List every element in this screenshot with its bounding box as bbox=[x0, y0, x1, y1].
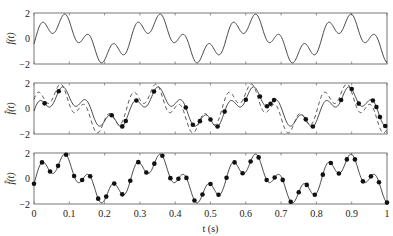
sample-point bbox=[40, 160, 45, 165]
y-tick-label: 2 bbox=[25, 8, 30, 19]
sample-point bbox=[385, 200, 390, 205]
sample-point bbox=[112, 181, 117, 186]
sample-point bbox=[288, 199, 293, 204]
sample-point bbox=[72, 174, 77, 179]
sample-point bbox=[128, 179, 133, 184]
sample-point bbox=[32, 182, 37, 187]
sample-point bbox=[183, 105, 188, 110]
sample-point bbox=[80, 178, 85, 183]
x-tick-label: 0.6 bbox=[240, 208, 253, 219]
sample-point bbox=[134, 98, 139, 103]
sample-point bbox=[312, 192, 317, 197]
sample-point bbox=[383, 124, 388, 129]
sample-point bbox=[353, 157, 358, 162]
sample-point bbox=[240, 171, 245, 176]
sample-point bbox=[88, 174, 93, 179]
figure: 20−2f(t)20−2f̂(t)20−2f̂(t)00.10.20.30.40… bbox=[0, 0, 393, 235]
sample-point bbox=[244, 98, 249, 103]
sample-point bbox=[369, 174, 374, 179]
sample-point bbox=[200, 192, 205, 197]
y-tick-label: 2 bbox=[25, 78, 30, 89]
x-tick-label: 0.1 bbox=[63, 208, 76, 219]
sample-point bbox=[198, 119, 203, 124]
x-tick-label: 0.2 bbox=[98, 208, 111, 219]
x-tick-label: 1 bbox=[385, 208, 390, 219]
sample-point bbox=[104, 194, 109, 199]
sample-point bbox=[192, 198, 197, 203]
sample-point bbox=[272, 98, 277, 103]
sample-point bbox=[160, 154, 165, 159]
original-signal-dashed bbox=[34, 84, 387, 133]
sample-point bbox=[268, 101, 273, 106]
sample-point bbox=[311, 124, 316, 129]
x-tick-label: 0.3 bbox=[134, 208, 147, 219]
sample-point bbox=[208, 117, 213, 122]
sample-point bbox=[280, 178, 285, 183]
x-axis-label: t (s) bbox=[203, 223, 219, 235]
sample-point bbox=[222, 109, 227, 114]
sample-point bbox=[371, 98, 376, 103]
axes-frame bbox=[34, 153, 387, 204]
signal-line bbox=[34, 14, 387, 63]
sample-point bbox=[56, 164, 61, 169]
y-tick-label: 0 bbox=[25, 33, 30, 44]
y-axis-label: f̂(t) bbox=[4, 102, 17, 115]
sample-point bbox=[377, 180, 382, 185]
sample-point bbox=[339, 98, 344, 103]
sample-point bbox=[176, 177, 181, 182]
y-tick-label: 0 bbox=[25, 103, 30, 114]
sample-point bbox=[184, 176, 189, 181]
sample-point bbox=[42, 101, 47, 106]
y-axis-label: f̂(t) bbox=[4, 172, 17, 185]
sample-point bbox=[152, 161, 157, 166]
sample-point bbox=[215, 124, 220, 129]
sample-point bbox=[216, 192, 221, 197]
sample-point bbox=[264, 178, 269, 183]
sample-point bbox=[296, 190, 301, 195]
x-tick-label: 0.9 bbox=[345, 208, 358, 219]
x-tick-label: 0 bbox=[32, 208, 37, 219]
signal-line bbox=[34, 154, 387, 203]
sample-point bbox=[208, 182, 213, 187]
sample-point bbox=[272, 175, 277, 180]
sample-point bbox=[64, 152, 69, 157]
sample-point bbox=[120, 124, 125, 129]
sample-point bbox=[258, 94, 263, 99]
y-tick-label: 0 bbox=[25, 173, 30, 184]
panel-reconstruction-irregular: 20−2f̂(t) bbox=[4, 78, 388, 140]
x-tick-label: 0.5 bbox=[204, 208, 217, 219]
sample-point bbox=[96, 196, 101, 201]
sample-point bbox=[248, 159, 253, 164]
y-tick-label: −2 bbox=[19, 59, 30, 70]
x-tick-label: 0.7 bbox=[275, 208, 288, 219]
sample-point bbox=[168, 176, 173, 181]
x-tick-label: 0.4 bbox=[169, 208, 182, 219]
sample-point bbox=[321, 172, 326, 177]
sample-point bbox=[356, 101, 361, 106]
sample-point bbox=[337, 171, 342, 176]
y-tick-label: −2 bbox=[19, 129, 30, 140]
sample-point bbox=[304, 117, 309, 122]
sample-point bbox=[345, 157, 350, 162]
sample-point bbox=[374, 105, 379, 110]
y-axis-label: f(t) bbox=[5, 32, 17, 45]
sample-point bbox=[136, 160, 141, 165]
sample-point bbox=[123, 119, 128, 124]
sample-point bbox=[256, 155, 261, 160]
sample-point bbox=[224, 175, 229, 180]
sample-point bbox=[378, 115, 383, 120]
sample-point bbox=[56, 89, 61, 94]
panel-original: 20−2f(t) bbox=[5, 8, 387, 70]
sample-point bbox=[144, 170, 149, 175]
y-tick-label: 2 bbox=[25, 148, 30, 159]
sample-point bbox=[152, 89, 157, 94]
sample-point bbox=[48, 169, 53, 174]
x-tick-label: 0.8 bbox=[310, 208, 323, 219]
sample-point bbox=[109, 113, 114, 118]
sample-point bbox=[349, 87, 354, 92]
y-tick-label: −2 bbox=[19, 199, 30, 210]
sample-point bbox=[361, 179, 366, 184]
sample-point bbox=[329, 161, 334, 166]
panel-reconstruction-uniform: 20−2f̂(t)00.10.20.30.40.50.60.70.80.91t … bbox=[4, 148, 390, 236]
axes-frame bbox=[34, 13, 387, 64]
